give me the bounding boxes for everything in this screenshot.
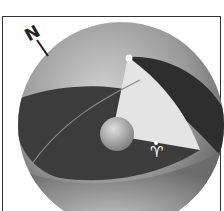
- aries-symbol: ♈: [150, 143, 163, 161]
- central-earth-sphere: [100, 117, 134, 151]
- north-pole-axis-marker: [37, 40, 48, 56]
- celestial-pole-point: [126, 55, 133, 62]
